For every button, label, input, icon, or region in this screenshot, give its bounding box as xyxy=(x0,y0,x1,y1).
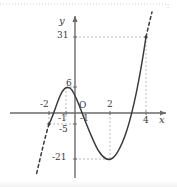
y-tick-label-6: 6 xyxy=(66,79,72,88)
x-tick-label-4: 4 xyxy=(143,116,149,125)
x-tick-label-neg1-left: -1 xyxy=(58,114,67,123)
axes xyxy=(10,16,166,178)
x-axis-label: x xyxy=(159,115,165,125)
cubic-function-plot xyxy=(0,0,177,187)
y-tick-label-neg21: -21 xyxy=(52,153,67,162)
y-axis-arrow xyxy=(72,16,77,22)
y-axis-label: y xyxy=(59,16,65,26)
point-4-31 xyxy=(144,35,147,38)
bottom-edge-fade xyxy=(0,181,177,187)
y-tick-label-31: 31 xyxy=(57,31,68,40)
curve-solid xyxy=(49,37,146,160)
y-tick-label-neg5: -5 xyxy=(59,125,68,134)
curve-dashed-left xyxy=(36,124,49,176)
curve-dashed-right xyxy=(146,12,152,37)
tick-marks xyxy=(49,37,146,159)
point-neg2-neg5 xyxy=(47,122,50,125)
x-tick-label-neg1-right: -1 xyxy=(80,114,89,123)
origin-label: O xyxy=(79,101,86,110)
page-border-remnant xyxy=(0,4,168,9)
x-tick-label-2: 2 xyxy=(107,100,113,109)
figure-container: y x O 31 6 -5 -21 -2 -1 -1 2 4 xyxy=(0,0,177,187)
guide-lines xyxy=(49,37,146,159)
x-tick-label-neg2: -2 xyxy=(40,100,49,109)
